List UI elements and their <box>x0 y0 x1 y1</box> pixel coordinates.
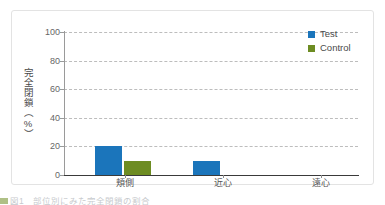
y-tick-label-40: 40 <box>26 113 60 122</box>
x-tick-label-1: 近心 <box>183 179 263 188</box>
bar-group-1 <box>193 32 253 175</box>
x-axis-line <box>64 175 359 176</box>
legend-label-control: Control <box>320 43 351 53</box>
y-tick-label-100: 100 <box>26 28 60 37</box>
legend-item-control[interactable]: Control <box>308 42 351 54</box>
figure-caption-strip: 図1 部位別にみた完全閉鎖の割合 <box>0 197 385 205</box>
bar-group-0 <box>95 32 155 175</box>
caption-marker-icon <box>0 198 8 204</box>
y-tick-label-20: 20 <box>26 142 60 151</box>
x-tick-label-0: 頬側 <box>85 179 165 188</box>
y-tick-label-0: 0 <box>26 171 60 180</box>
bar-control-0[interactable] <box>124 161 151 175</box>
legend-label-test: Test <box>320 29 337 39</box>
y-tick-label-80: 80 <box>26 56 60 65</box>
figure-frame: 完全閉鎖（%） 100 80 60 40 20 0 <box>11 10 374 185</box>
y-tick-labels: 100 80 60 40 20 0 <box>24 32 60 175</box>
legend-swatch-test <box>308 31 315 38</box>
bar-test-1[interactable] <box>193 161 220 175</box>
x-tick-label-2: 遠心 <box>281 179 361 188</box>
bar-test-0[interactable] <box>95 146 122 175</box>
legend-item-test[interactable]: Test <box>308 28 351 40</box>
bar-chart: 完全閉鎖（%） 100 80 60 40 20 0 <box>12 11 375 186</box>
y-tick-label-60: 60 <box>26 85 60 94</box>
chart-legend: Test Control <box>308 28 351 56</box>
legend-swatch-control <box>308 45 315 52</box>
figure-caption-text: 図1 部位別にみた完全閉鎖の割合 <box>10 197 150 205</box>
